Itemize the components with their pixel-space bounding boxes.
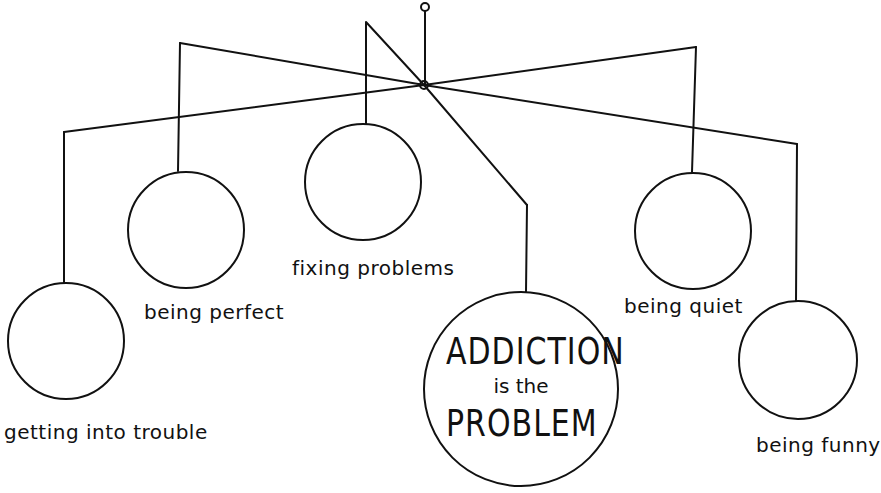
string-being-perfect — [178, 43, 180, 171]
label-being-perfect: being perfect — [144, 300, 284, 324]
circle-getting-into-trouble — [8, 283, 124, 399]
center-line-2: is the — [446, 373, 596, 399]
circle-being-quiet — [635, 173, 751, 289]
label-getting-into-trouble: getting into trouble — [4, 420, 208, 444]
circle-fixing-problems — [305, 124, 421, 240]
string-addiction — [526, 205, 527, 292]
center-line-3: PROBLEM — [446, 401, 596, 446]
label-being-quiet: being quiet — [624, 294, 743, 318]
center-label: ADDICTION is the PROBLEM — [446, 333, 596, 441]
center-line-1: ADDICTION — [446, 329, 596, 374]
circle-being-perfect — [128, 172, 244, 288]
string-being-funny — [796, 144, 797, 301]
crossbar-a — [180, 43, 696, 85]
label-being-funny: being funny — [756, 433, 881, 457]
center-hanger-frame — [366, 22, 527, 205]
mobile-diagram: ADDICTION is the PROBLEM getting into tr… — [0, 0, 881, 493]
circle-being-funny — [739, 301, 857, 419]
label-fixing-problems: fixing problems — [292, 256, 454, 280]
string-being-quiet — [692, 47, 696, 172]
hook-icon — [421, 3, 429, 11]
